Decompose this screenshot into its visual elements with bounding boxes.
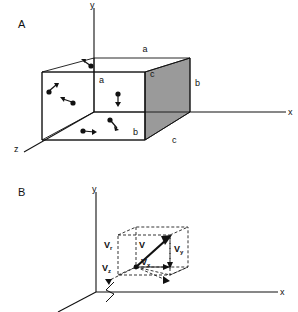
gas-particle [115, 91, 121, 107]
gas-particle [46, 83, 59, 95]
panel-b: B y x [18, 184, 285, 312]
panel-b-label: B [18, 186, 25, 198]
gas-particle [80, 128, 97, 135]
panel-b-axes: y x [58, 184, 285, 312]
dim-label-b-right: b [195, 78, 200, 88]
panel-a-label: A [18, 18, 26, 30]
panel-a-z-axis-label: z [14, 144, 19, 154]
dim-label-b-inner: b [133, 127, 138, 137]
dim-label-a-top: a [142, 44, 147, 54]
gas-particle [81, 59, 94, 69]
panel-a: A y x z [14, 0, 293, 154]
vz-projection-arrowhead [105, 279, 112, 285]
scientific-figure: A y x z [0, 0, 298, 312]
label-v-resultant: V [139, 240, 145, 250]
vy-arrow-head [167, 262, 173, 269]
floor-projection-arrows [105, 267, 170, 285]
figure-container: A y x z [0, 0, 298, 312]
panel-b-x-axis-label: x [280, 287, 285, 297]
vx-floor-projection-arrowhead [163, 276, 170, 284]
panel-a-x-axis-label: x [288, 107, 293, 117]
label-v-x: Vx [141, 257, 151, 268]
panel-a-y-axis-label: y [90, 0, 95, 10]
vx-floor-projection-line [136, 267, 166, 280]
label-v-z: Vz [102, 263, 111, 274]
dim-label-c-lower: c [172, 135, 177, 145]
label-v-r: Vr [104, 240, 113, 251]
panel-b-y-axis-label: y [92, 184, 97, 194]
component-box-top-right-diagonal [170, 227, 188, 235]
label-v-y: Vy [174, 244, 184, 255]
box-interior-receding-edge [42, 112, 94, 140]
gas-particles [46, 59, 121, 135]
dim-label-c-upper: c [150, 69, 155, 79]
panel-b-z-axis [58, 292, 96, 312]
gas-particle [60, 97, 76, 106]
gas-particle [107, 117, 119, 131]
dim-label-a-inner: a [99, 75, 104, 85]
vector-origin-dot [134, 265, 139, 270]
